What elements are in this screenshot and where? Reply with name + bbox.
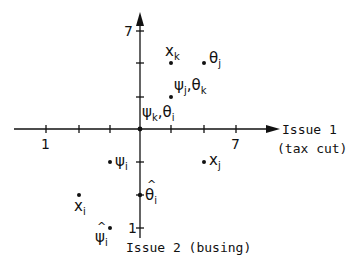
- label-x-k: xk: [165, 44, 180, 62]
- label-psi-k-theta-i: ψk,θi: [142, 105, 174, 123]
- point-psi-j-theta-k: [169, 95, 173, 99]
- label-theta-j: θj: [209, 51, 221, 69]
- point-theta-hat-i: [138, 193, 142, 197]
- y-tick-label-7: 7: [124, 24, 133, 38]
- point-psi-k-theta-i: [138, 127, 143, 132]
- x-axis-title: Issue 1: [282, 123, 337, 136]
- point-psi-hat-i: [108, 226, 112, 230]
- label-psi-i: ψi: [115, 154, 128, 172]
- label-psi-hat-i: ψi: [95, 230, 108, 248]
- point-theta-j: [202, 61, 206, 65]
- label-theta-hat-i: θi: [145, 188, 157, 206]
- x-axis-arrow-icon: [266, 125, 280, 133]
- label-x-i: xi: [74, 199, 86, 217]
- y-tick-label-1: 1: [128, 221, 137, 235]
- label-x-j: xj: [209, 153, 221, 171]
- point-psi-i: [108, 160, 112, 164]
- y-axis-arrow-icon: [136, 12, 144, 26]
- point-x-j: [202, 160, 206, 164]
- x-tick-label-1: 1: [41, 137, 50, 151]
- label-psi-j-theta-k: ψj,θk: [174, 78, 206, 96]
- x-axis-subtitle: (tax cut): [277, 142, 347, 155]
- y-axis-title: Issue 2 (busing): [126, 241, 251, 254]
- x-tick-label-7: 7: [231, 137, 240, 151]
